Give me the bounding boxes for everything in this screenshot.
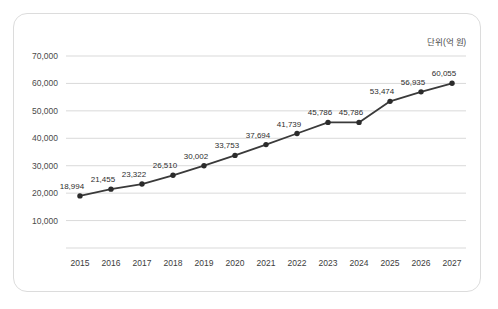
data-point-label: 26,510 [153, 161, 178, 170]
data-point-marker [77, 193, 82, 198]
x-axis-tick-labels: 2015201620172018201920202021202220232024… [70, 258, 461, 268]
data-point-marker [294, 131, 299, 136]
data-point-marker [418, 89, 423, 94]
x-axis-tick-label: 2016 [102, 258, 121, 268]
x-axis-tick-label: 2022 [288, 258, 307, 268]
data-point-marker [108, 186, 113, 191]
data-point-marker [263, 142, 268, 147]
chart-card: 단위(억 원) 10,00020,00030,00040,00050,00060… [13, 13, 481, 292]
y-axis-tick-label: 20,000 [32, 188, 58, 198]
data-point-label: 41,739 [277, 120, 302, 129]
chart-canvas: 10,00020,00030,00040,00050,00060,00070,0… [14, 14, 482, 293]
data-point-marker [387, 99, 392, 104]
line-chart: 10,00020,00030,00040,00050,00060,00070,0… [14, 14, 482, 293]
data-point-label: 60,055 [432, 69, 457, 78]
data-point-label: 21,455 [91, 175, 116, 184]
data-point-label: 45,786 [339, 108, 364, 117]
x-axis-tick-label: 2027 [443, 258, 462, 268]
x-axis-tick-label: 2021 [257, 258, 276, 268]
data-point-label: 30,002 [184, 152, 209, 161]
y-axis-tick-label: 40,000 [32, 133, 58, 143]
data-point-label: 18,994 [60, 182, 85, 191]
x-axis-tick-label: 2026 [412, 258, 431, 268]
data-point-label: 56,935 [401, 78, 426, 87]
data-point-marker [139, 181, 144, 186]
x-axis-tick-label: 2015 [70, 258, 89, 268]
data-point-marker [170, 173, 175, 178]
x-axis-tick-label: 2025 [381, 258, 400, 268]
data-point-label: 33,753 [215, 141, 240, 150]
data-point-marker [449, 81, 454, 86]
data-point-label: 53,474 [370, 87, 395, 96]
data-point-marker [356, 120, 361, 125]
x-axis-tick-label: 2018 [164, 258, 183, 268]
data-point-marker [201, 163, 206, 168]
x-axis-tick-label: 2024 [350, 258, 369, 268]
y-axis-tick-label: 50,000 [32, 106, 58, 116]
data-point-labels: 18,99421,45523,32226,51030,00233,75337,6… [60, 69, 457, 191]
x-axis-tick-label: 2020 [226, 258, 245, 268]
data-point-marker [325, 120, 330, 125]
data-point-label: 45,786 [308, 108, 333, 117]
y-axis-tick-label: 70,000 [32, 51, 58, 61]
data-point-label: 23,322 [122, 170, 147, 179]
x-axis-tick-label: 2019 [195, 258, 214, 268]
data-point-label: 37,694 [246, 131, 271, 140]
x-axis-tick-label: 2017 [133, 258, 152, 268]
data-point-marker [232, 153, 237, 158]
x-axis-tick-label: 2023 [319, 258, 338, 268]
y-axis-tick-labels: 10,00020,00030,00040,00050,00060,00070,0… [32, 51, 58, 226]
y-axis-tick-label: 60,000 [32, 78, 58, 88]
y-axis-tick-label: 30,000 [32, 161, 58, 171]
y-axis-tick-label: 10,000 [32, 216, 58, 226]
